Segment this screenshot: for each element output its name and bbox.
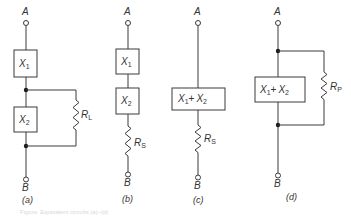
terminal-a-icon: [276, 21, 281, 26]
terminal-b-label: B: [194, 180, 201, 191]
figure-caption: Figure: Equivalent circuits (a)–(d): [20, 209, 108, 215]
circuit-d-caption: (d): [286, 192, 297, 202]
circuit-b-caption: (b): [122, 194, 133, 204]
terminal-a-icon: [196, 21, 201, 26]
terminal-a-label: A: [273, 6, 281, 17]
element-x1-plus-x2-label: X1+X2: [259, 84, 289, 96]
resistor-rs-label: RS: [204, 133, 216, 145]
resistor-rp-label: RP: [330, 81, 342, 93]
terminal-a-icon: [126, 21, 131, 26]
terminal-b-label: B: [274, 178, 281, 189]
circuit-a-caption: (a): [22, 195, 33, 205]
circuit-c-caption: (c): [193, 195, 204, 205]
terminal-a-label: A: [21, 6, 29, 17]
circuit-b: A X1 X2 RS B (b): [116, 6, 146, 204]
terminal-a-label: A: [193, 6, 201, 17]
circuit-a: A X1 X2 RL B (a): [14, 6, 92, 205]
resistor-rs-icon: [125, 126, 131, 172]
resistor-rs-label: RS: [134, 137, 146, 149]
resistor-rp-icon: [321, 72, 327, 100]
circuit-d: A X1+X2 RP B (d): [255, 6, 342, 202]
element-x1-plus-x2-label: X1+X2: [177, 93, 207, 105]
resistor-rs-icon: [195, 125, 201, 175]
terminal-a-icon: [24, 21, 29, 26]
circuit-diagram: A X1 X2 RL B (a) A X1 X2 RS B (b): [0, 0, 351, 218]
resistor-rl-label: RL: [81, 109, 92, 121]
circuit-c: A X1+X2 RS B (c): [172, 6, 225, 205]
terminal-b-label: B: [124, 177, 131, 188]
terminal-b-label: B: [22, 182, 29, 193]
terminal-a-label: A: [123, 6, 131, 17]
resistor-rl-icon: [73, 100, 79, 130]
